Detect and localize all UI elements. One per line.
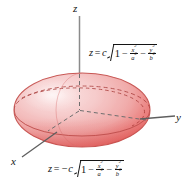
radical-sign-icon: [74, 160, 80, 177]
axis-label-z: z: [73, 3, 77, 14]
lower-hemisphere-equation: z = −c 1 − x2 a2 − y2 b2: [48, 160, 124, 177]
upper-eq-minus-2: −: [138, 49, 148, 59]
upper-eq-term1-den: a2: [130, 53, 138, 61]
lower-eq-term1-den: a2: [96, 169, 104, 177]
upper-eq-coefficient: c: [102, 48, 107, 58]
upper-eq-radicand: 1 − x2 a2 − y2 b2: [113, 44, 157, 61]
lower-eq-term1: x2 a2: [96, 163, 104, 178]
lower-eq-coefficient: −c: [61, 164, 73, 174]
axis-label-y: y: [176, 112, 181, 123]
lower-eq-minus-1: −: [86, 165, 96, 175]
upper-eq-term1: x2 a2: [130, 47, 138, 62]
lower-eq-term2: y2 b2: [115, 163, 123, 178]
upper-eq-equals: =: [93, 48, 102, 58]
lower-eq-radicand: 1 − x2 a2 − y2 b2: [80, 160, 124, 177]
radical-sign-icon: [107, 44, 113, 61]
upper-eq-radical: 1 − x2 a2 − y2 b2: [107, 44, 157, 61]
lower-eq-radical: 1 − x2 a2 − y2 b2: [74, 160, 124, 177]
upper-eq-term2-den: b2: [148, 53, 156, 61]
ellipsoid-diagram: [0, 0, 195, 185]
lower-eq-minus-2: −: [105, 165, 115, 175]
upper-eq-term2: y2 b2: [148, 47, 156, 62]
axis-label-x: x: [11, 156, 16, 167]
upper-eq-minus-1: −: [120, 49, 130, 59]
lower-eq-term2-den: b2: [115, 169, 123, 177]
upper-hemisphere-equation: z = c 1 − x2 a2 − y2 b2: [89, 44, 157, 61]
lower-eq-equals: =: [52, 164, 61, 174]
